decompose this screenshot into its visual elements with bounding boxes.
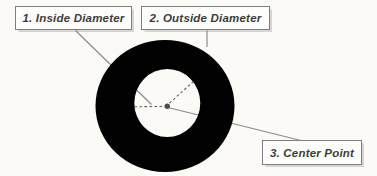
label-center-point-text: 3. Center Point — [270, 147, 354, 159]
center-point-dot — [165, 104, 170, 109]
label-inside-diameter: 1. Inside Diameter — [15, 6, 132, 30]
label-center-point: 3. Center Point — [262, 140, 362, 165]
label-inside-diameter-text: 1. Inside Diameter — [22, 12, 124, 24]
label-outside-diameter-text: 2. Outside Diameter — [150, 12, 262, 24]
donut-diagram: 1. Inside Diameter 2. Outside Diameter 3… — [0, 0, 377, 176]
label-outside-diameter: 2. Outside Diameter — [141, 6, 270, 30]
